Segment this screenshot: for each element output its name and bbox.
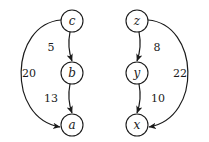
node-x: x bbox=[126, 114, 148, 136]
node-x-label: x bbox=[134, 118, 141, 132]
node-b: b bbox=[61, 62, 83, 84]
edge-z-y bbox=[137, 32, 140, 61]
edge-c-b bbox=[69, 32, 72, 61]
node-c: c bbox=[61, 10, 83, 32]
weight-z-y: 8 bbox=[154, 41, 161, 54]
edge-b-a bbox=[69, 84, 72, 113]
weight-c-a: 20 bbox=[22, 67, 36, 80]
weight-b-a: 13 bbox=[44, 92, 58, 105]
weight-y-x: 10 bbox=[151, 92, 165, 105]
node-z-label: z bbox=[133, 14, 141, 28]
node-a-label: a bbox=[68, 118, 75, 132]
weight-c-b: 5 bbox=[48, 41, 55, 54]
node-a: a bbox=[61, 114, 83, 136]
node-c-label: c bbox=[69, 14, 76, 28]
node-y: y bbox=[126, 62, 148, 84]
node-y-label: y bbox=[133, 66, 141, 80]
graph-diagram: c b a z y x 5 13 20 8 10 22 bbox=[0, 0, 209, 142]
weight-z-x: 22 bbox=[173, 67, 187, 80]
node-z: z bbox=[126, 10, 148, 32]
edge-y-x bbox=[137, 84, 140, 113]
node-b-label: b bbox=[68, 66, 76, 80]
